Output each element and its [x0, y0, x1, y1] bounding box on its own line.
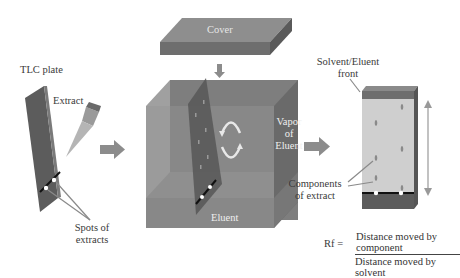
- solvent-front-label: Solvent/Eluent front: [313, 56, 383, 80]
- tlc-plate-label: TLC plate: [20, 64, 63, 76]
- vapor-label-line1: Vapor: [274, 116, 304, 128]
- arrow-right-icon: [100, 140, 125, 159]
- distance-double-arrow-icon: [424, 100, 432, 196]
- spots-of-extracts-label: Spots of extracts: [70, 222, 114, 246]
- rf-denominator: Distance moved by solvent: [355, 255, 460, 278]
- vapor-label-line3: Eluent: [274, 140, 304, 152]
- extract-label: Extract: [53, 95, 83, 107]
- front-pointer-line: [350, 79, 360, 92]
- pipette-icon: [66, 102, 101, 157]
- spots-label-line2: extracts: [70, 234, 114, 246]
- spots-label-line1: Spots of: [70, 222, 114, 234]
- rf-fraction: Distance moved by component Distance mov…: [355, 231, 460, 278]
- front-label-line2: front: [313, 68, 383, 80]
- vapor-label-line2: of: [274, 128, 304, 140]
- rf-numerator: Distance moved by component: [355, 231, 460, 255]
- arrow-down-icon: [214, 64, 225, 78]
- cover-label: Cover: [207, 24, 233, 36]
- vapor-of-eluent-label: Vapor of Eluent: [274, 116, 304, 152]
- front-label-line1: Solvent/Eluent: [313, 56, 383, 68]
- eluent-label: Eluent: [211, 212, 238, 224]
- rf-lhs: Rf =: [324, 238, 343, 250]
- components-of-extract-label: Components of extract: [283, 178, 347, 202]
- developing-chamber: [146, 80, 298, 228]
- components-label-line1: Components: [283, 178, 347, 190]
- developed-tlc-plate: [362, 86, 418, 209]
- components-label-line2: of extract: [283, 190, 347, 202]
- arrow-right-icon: [304, 137, 330, 156]
